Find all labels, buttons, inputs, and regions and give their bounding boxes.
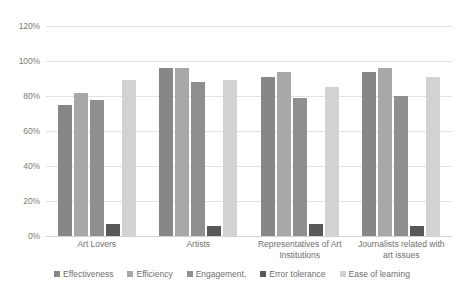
legend-item[interactable]: Effectiveness: [54, 269, 113, 279]
x-axis-labels: Art LoversArtistsRepresentatives of Art …: [46, 239, 452, 261]
y-axis-tick-label: 20%: [0, 196, 40, 206]
bar-chart: 0%20%40%60%80%100%120% Art LoversArtists…: [0, 0, 464, 296]
legend-swatch-icon: [127, 271, 133, 277]
bar[interactable]: [362, 72, 376, 237]
bar[interactable]: [159, 68, 173, 236]
x-axis-category-label: Representatives of Art Institutions: [249, 239, 351, 261]
y-axis: 0%20%40%60%80%100%120%: [0, 26, 42, 236]
bar-groups: [46, 26, 452, 236]
legend-label: Ease of learning: [349, 269, 410, 279]
bar[interactable]: [309, 224, 323, 236]
legend-label: Effectiveness: [63, 269, 113, 279]
bar[interactable]: [122, 80, 136, 236]
bar[interactable]: [223, 80, 237, 236]
chart-legend: EffectivenessEfficiencyEngagement,Error …: [0, 269, 464, 279]
y-axis-tick-label: 60%: [0, 126, 40, 136]
legend-item[interactable]: Ease of learning: [340, 269, 410, 279]
bar[interactable]: [410, 226, 424, 237]
bar[interactable]: [277, 72, 291, 237]
legend-item[interactable]: Error tolerance: [260, 269, 325, 279]
legend-label: Engagement,: [196, 269, 247, 279]
bar-group: [351, 26, 453, 236]
legend-swatch-icon: [340, 271, 346, 277]
legend-swatch-icon: [187, 271, 193, 277]
x-axis-category-label: Artists: [148, 239, 250, 261]
legend-item[interactable]: Engagement,: [187, 269, 247, 279]
legend-label: Error tolerance: [269, 269, 325, 279]
plot-area: [46, 26, 452, 236]
y-axis-tick-label: 40%: [0, 161, 40, 171]
x-axis-category-label: Art Lovers: [46, 239, 148, 261]
bar-group: [46, 26, 148, 236]
legend-swatch-icon: [260, 271, 266, 277]
bar[interactable]: [90, 100, 104, 237]
bar[interactable]: [175, 68, 189, 236]
legend-item[interactable]: Efficiency: [127, 269, 172, 279]
bar-group: [249, 26, 351, 236]
bar[interactable]: [58, 105, 72, 236]
y-axis-tick-label: 120%: [0, 21, 40, 31]
bar[interactable]: [378, 68, 392, 236]
y-axis-tick-label: 100%: [0, 56, 40, 66]
bar[interactable]: [426, 77, 440, 236]
legend-swatch-icon: [54, 271, 60, 277]
bar[interactable]: [325, 87, 339, 236]
y-axis-tick-label: 0%: [0, 231, 40, 241]
bar-group: [148, 26, 250, 236]
bar[interactable]: [293, 98, 307, 236]
bar[interactable]: [74, 93, 88, 237]
bar[interactable]: [394, 96, 408, 236]
bar[interactable]: [191, 82, 205, 236]
x-axis-category-label: Journalists related with art issues: [351, 239, 453, 261]
bar[interactable]: [106, 224, 120, 236]
gridline: [46, 236, 452, 237]
bar[interactable]: [207, 226, 221, 237]
y-axis-tick-label: 80%: [0, 91, 40, 101]
legend-label: Efficiency: [136, 269, 172, 279]
bar[interactable]: [261, 77, 275, 236]
